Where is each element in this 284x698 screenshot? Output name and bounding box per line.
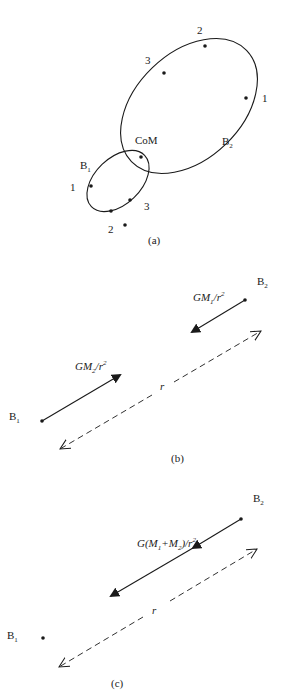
panel-b: B2 GM1/r2 B1 GM2/r2 r (b) <box>9 275 268 465</box>
b2-point-2-label: 2 <box>197 24 203 36</box>
force-label-gm1: GM1/r2 <box>193 290 225 306</box>
b2-point-2 <box>203 44 207 48</box>
panel-a: 2 3 1 CoM B2 B1 1 3 2 (a) <box>70 12 283 247</box>
b2-label: B2 <box>253 492 264 507</box>
b2-point-3 <box>162 71 166 75</box>
two-body-diagram: 2 3 1 CoM B2 B1 1 3 2 (a) B2 GM1/r2 B1 G… <box>0 0 284 698</box>
b1-dot <box>41 636 45 640</box>
relative-force-label: G(M1+M2)/r2 <box>137 536 196 552</box>
force-arrow-on-b1 <box>42 375 120 421</box>
relative-force-arrow <box>111 548 193 596</box>
relative-force-arrow-segment <box>193 519 241 548</box>
b1-point-2 <box>109 209 113 213</box>
distance-line-upper <box>170 549 257 601</box>
b1-point-1-label: 1 <box>70 181 76 193</box>
b1-point-1 <box>89 184 93 188</box>
b2-point-1 <box>244 96 248 100</box>
distance-line-upper <box>174 331 261 382</box>
b1-label: B1 <box>80 159 91 174</box>
caption-c: (c) <box>111 677 124 690</box>
panel-c: B2 G(M1+M2)/r2 B1 r (c) <box>7 492 264 690</box>
b2-point-3-label: 3 <box>145 54 151 66</box>
caption-a: (a) <box>148 234 161 247</box>
distance-line-lower <box>59 617 143 667</box>
com-point <box>139 155 143 159</box>
force-label-gm2: GM2/r2 <box>75 359 107 375</box>
distance-label: r <box>160 380 165 392</box>
b2-label: B2 <box>222 135 233 150</box>
distance-label: r <box>152 604 157 616</box>
com-label: CoM <box>135 134 158 146</box>
b1-point-2-label: 2 <box>108 223 114 235</box>
force-arrow-on-b2 <box>192 300 245 332</box>
b1-label: B1 <box>7 629 18 644</box>
b1-point-2-outer <box>123 223 127 227</box>
b2-label: B2 <box>257 275 268 290</box>
b1-point-3-label: 3 <box>144 200 150 212</box>
caption-b: (b) <box>171 452 184 465</box>
b1-label: B1 <box>9 410 20 425</box>
distance-line-lower <box>60 395 152 449</box>
orbit-b2 <box>95 12 284 199</box>
b1-point-3 <box>128 198 132 202</box>
b2-point-1-label: 1 <box>262 92 268 104</box>
